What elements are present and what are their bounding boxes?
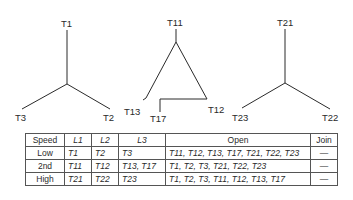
- cell-l2: T2: [92, 147, 119, 160]
- cell-join: —: [311, 160, 338, 173]
- wye-high-diagram: [242, 29, 330, 109]
- label-t17: T17: [150, 113, 166, 124]
- label-t21: T21: [277, 17, 293, 28]
- label-t3: T3: [15, 112, 26, 123]
- header-l1: L1: [65, 134, 92, 147]
- table-row: High T21 T22 T23 T1, T2, T3, T11, T12, T…: [26, 173, 338, 186]
- table-row: 2nd T11 T12 T13, T17 T1, T2, T3, T21, T2…: [26, 160, 338, 173]
- cell-open: T11, T12, T13, T17, T21, T22, T23: [166, 147, 311, 160]
- cell-join: —: [311, 147, 338, 160]
- header-join: Join: [311, 134, 338, 147]
- cell-speed: Low: [26, 147, 65, 160]
- delta-2nd-diagram: [143, 29, 207, 112]
- header-l2: L2: [92, 134, 119, 147]
- cell-l3: T13, T17: [119, 160, 166, 173]
- label-t13: T13: [124, 106, 140, 117]
- cell-speed: 2nd: [26, 160, 65, 173]
- wye-low-diagram: [22, 30, 110, 109]
- label-t11: T11: [167, 17, 183, 28]
- label-t22: T22: [322, 112, 338, 123]
- cell-l3: T3: [119, 147, 166, 160]
- cell-l1: T21: [65, 173, 92, 186]
- cell-open: T1, T2, T3, T21, T22, T23: [166, 160, 311, 173]
- cell-l2: T12: [92, 160, 119, 173]
- header-l3: L3: [119, 134, 166, 147]
- cell-speed: High: [26, 173, 65, 186]
- label-t12: T12: [208, 104, 224, 115]
- table-header-row: Speed L1 L2 L3 Open Join: [26, 134, 338, 147]
- cell-open: T1, T2, T3, T11, T12, T13, T17: [166, 173, 311, 186]
- cell-l1: T11: [65, 160, 92, 173]
- label-t23: T23: [232, 112, 248, 123]
- cell-join: —: [311, 173, 338, 186]
- cell-l3: T23: [119, 173, 166, 186]
- header-open: Open: [166, 134, 311, 147]
- table-row: Low T1 T2 T3 T11, T12, T13, T17, T21, T2…: [26, 147, 338, 160]
- connection-table: Speed L1 L2 L3 Open Join Low T1 T2 T3 T1…: [25, 133, 338, 186]
- label-t1: T1: [61, 18, 72, 29]
- header-speed: Speed: [26, 134, 65, 147]
- cell-l1: T1: [65, 147, 92, 160]
- winding-diagrams: T1 T2 T3 T11 T12 T13 T17 T21 T22 T23: [0, 0, 353, 132]
- label-t2: T2: [103, 112, 114, 123]
- cell-l2: T22: [92, 173, 119, 186]
